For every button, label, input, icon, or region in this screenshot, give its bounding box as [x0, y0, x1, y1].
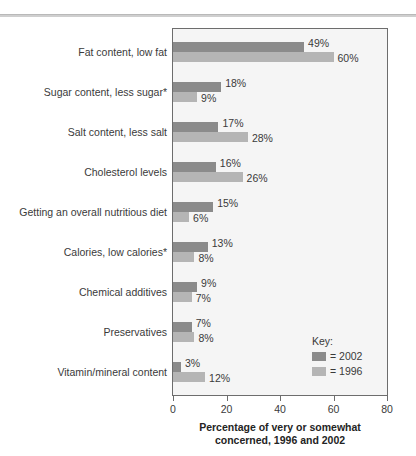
x-axis-tick-label: 20 — [221, 403, 233, 415]
chart-category-row: Calories, low calories*13%8% — [0, 236, 416, 276]
bar-1996 — [173, 252, 194, 262]
legend-item-1996: = 1996 — [312, 365, 382, 377]
x-axis-tick-label: 60 — [328, 403, 340, 415]
bar-1996 — [173, 172, 243, 182]
category-label: Sugar content, less sugar* — [44, 86, 167, 98]
bar-2002 — [173, 82, 221, 92]
top-divider-rule — [0, 14, 416, 17]
x-axis-title-line-2: concerned, 1996 and 2002 — [172, 434, 388, 447]
bar-2002 — [173, 122, 218, 132]
bar-value-label-1996: 7% — [196, 293, 211, 303]
bar-1996 — [173, 212, 189, 222]
chart-category-row: Salt content, less salt17%28% — [0, 116, 416, 156]
bar-2002 — [173, 322, 192, 332]
bar-2002 — [173, 242, 208, 252]
category-label: Calories, low calories* — [64, 246, 167, 258]
legend-swatch-1996 — [312, 367, 326, 376]
bar-value-label-2002: 18% — [225, 78, 246, 88]
x-axis-tick — [334, 396, 335, 401]
chart-category-row: Sugar content, less sugar*18%9% — [0, 76, 416, 116]
x-axis-tick-label: 0 — [170, 403, 176, 415]
category-label: Getting an overall nutritious diet — [19, 206, 167, 218]
bar-1996 — [173, 292, 192, 302]
legend-title: Key: — [312, 335, 382, 347]
category-label: Chemical additives — [79, 286, 167, 298]
bar-value-label-1996: 6% — [193, 213, 208, 223]
legend-label-1996: = 1996 — [330, 365, 362, 377]
x-axis-title: Percentage of very or somewhat concerned… — [172, 421, 388, 447]
chart-legend: Key: = 2002 = 1996 — [312, 335, 382, 380]
chart-category-row: Getting an overall nutritious diet15%6% — [0, 196, 416, 236]
bar-value-label-1996: 8% — [198, 333, 213, 343]
category-label: Fat content, low fat — [78, 46, 167, 58]
category-label: Cholesterol levels — [84, 166, 167, 178]
x-axis-tick-label: 40 — [274, 403, 286, 415]
bar-value-label-1996: 9% — [201, 93, 216, 103]
x-axis-tick-label: 80 — [381, 403, 393, 415]
bar-2002 — [173, 202, 213, 212]
bar-value-label-1996: 12% — [209, 373, 230, 383]
bar-1996 — [173, 132, 248, 142]
bar-value-label-2002: 9% — [201, 278, 216, 288]
bar-value-label-2002: 13% — [212, 238, 233, 248]
category-label: Preservatives — [103, 326, 167, 338]
legend-label-2002: = 2002 — [330, 350, 362, 362]
bar-value-label-2002: 17% — [222, 118, 243, 128]
bar-value-label-2002: 3% — [185, 358, 200, 368]
bar-value-label-2002: 49% — [308, 38, 329, 48]
bar-value-label-1996: 8% — [198, 253, 213, 263]
x-axis-tick-labels: 020406080 — [172, 403, 388, 417]
bar-value-label-2002: 15% — [217, 198, 238, 208]
legend-item-2002: = 2002 — [312, 350, 382, 362]
bar-value-label-1996: 60% — [338, 53, 359, 63]
chart-category-row: Chemical additives9%7% — [0, 276, 416, 316]
bar-value-label-1996: 26% — [247, 173, 268, 183]
bar-2002 — [173, 362, 181, 372]
bar-2002 — [173, 282, 197, 292]
x-axis-ticks — [172, 396, 388, 402]
bar-value-label-2002: 7% — [196, 318, 211, 328]
category-label: Vitamin/mineral content — [57, 366, 167, 378]
bar-1996 — [173, 372, 205, 382]
x-axis-title-line-1: Percentage of very or somewhat — [172, 421, 388, 434]
bar-1996 — [173, 92, 197, 102]
bar-value-label-1996: 28% — [252, 133, 273, 143]
x-axis-tick — [280, 396, 281, 401]
x-axis-tick — [173, 396, 174, 401]
bar-value-label-2002: 16% — [220, 158, 241, 168]
x-axis-tick — [227, 396, 228, 401]
category-label: Salt content, less salt — [68, 126, 167, 138]
chart-category-row: Cholesterol levels16%26% — [0, 156, 416, 196]
bar-1996 — [173, 332, 194, 342]
bar-2002 — [173, 162, 216, 172]
chart-category-row: Fat content, low fat49%60% — [0, 36, 416, 76]
legend-swatch-2002 — [312, 352, 326, 361]
bar-1996 — [173, 52, 334, 62]
x-axis-tick — [387, 396, 388, 401]
bar-2002 — [173, 42, 304, 52]
